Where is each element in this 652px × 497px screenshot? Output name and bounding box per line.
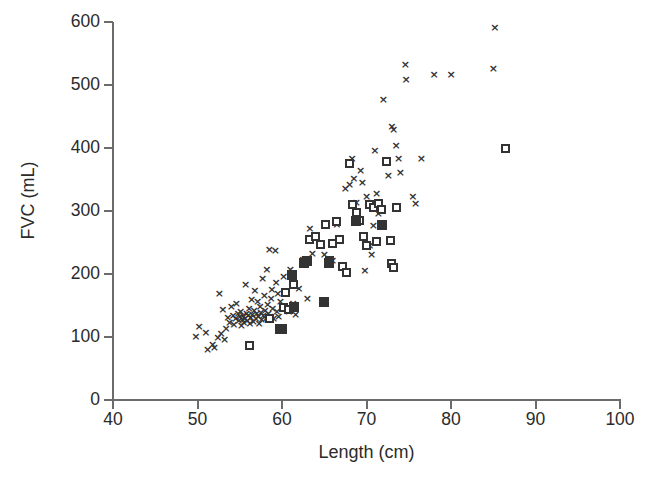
data-point-x-marker: × [489,22,500,33]
data-point-x-marker: × [395,167,406,178]
data-point-x-marker: × [267,303,278,314]
data-point-x-marker: × [252,296,263,307]
data-point-x-marker: × [200,327,211,338]
data-point-open-square [338,262,347,271]
x-axis-label: Length (cm) [113,442,620,463]
data-point-x-marker: × [242,315,253,326]
data-point-open-square [289,280,298,289]
data-point-x-marker: × [488,63,499,74]
data-point-x-marker: × [355,165,366,176]
data-point-x-marker: × [258,310,269,321]
data-point-x-marker: × [264,244,275,255]
data-point-open-square [382,157,391,166]
x-tick-label: 40 [83,409,143,430]
scatter-plot-figure: 0100200300400500600 405060708090100 FVC … [0,0,652,497]
data-point-x-marker: × [244,303,255,314]
data-point-x-marker: × [273,311,284,322]
data-point-x-marker: × [255,301,266,312]
data-point-x-marker: × [259,290,270,301]
data-point-filled-square [319,297,329,307]
data-point-open-square [311,232,320,241]
data-point-x-marker: × [262,299,273,310]
x-tick-label: 60 [252,409,312,430]
data-point-x-marker: × [302,293,313,304]
data-point-x-marker: × [340,183,351,194]
data-point-x-marker: × [226,301,237,312]
data-point-x-marker: × [224,317,235,328]
data-point-open-square [369,203,378,212]
x-tick-label: 80 [421,409,481,430]
y-tick-label: 500 [48,74,100,95]
data-point-open-square [387,259,396,268]
data-point-open-square [325,256,334,265]
data-point-open-square [501,144,510,153]
data-point-x-marker: × [233,315,244,326]
data-point-x-marker: × [271,277,282,288]
data-point-x-marker: × [240,279,251,290]
data-point-x-marker: × [446,69,457,80]
data-point-x-marker: × [293,283,304,294]
data-point-x-marker: × [361,191,372,202]
data-point-x-marker: × [272,288,283,299]
y-tick-mark [104,273,113,275]
y-tick-mark [104,210,113,212]
data-point-x-marker: × [251,308,262,319]
data-point-x-marker: × [307,248,318,259]
data-point-x-marker: × [230,313,241,324]
y-axis-label-wrap: FVC (mL) [0,0,40,420]
y-tick-label: 400 [48,137,100,158]
y-tick-mark [104,147,113,149]
data-point-filled-square [275,324,285,334]
data-point-x-marker: × [250,313,261,324]
data-point-x-marker: × [247,309,258,320]
data-point-x-marker: × [363,197,374,208]
data-point-open-square [389,263,398,272]
data-point-x-marker: × [287,298,298,309]
data-point-x-marker: × [373,208,384,219]
data-point-open-square [377,205,386,214]
data-point-open-square [359,232,368,241]
data-point-open-square [372,237,381,246]
data-point-x-marker: × [378,94,389,105]
data-point-open-square [321,220,330,229]
data-point-x-marker: × [410,198,421,209]
data-point-x-marker: × [219,334,230,345]
data-point-x-marker: × [357,177,368,188]
data-point-filled-square [287,270,297,280]
data-point-x-marker: × [249,285,260,296]
data-point-x-marker: × [323,257,334,268]
data-point-open-square [305,235,314,244]
data-point-x-marker: × [227,310,238,321]
data-point-x-marker: × [254,318,265,329]
data-point-open-square [348,200,357,209]
data-point-open-square [265,314,274,323]
data-point-x-marker: × [271,306,282,317]
data-point-x-marker: × [359,265,370,276]
data-point-x-marker: × [263,308,274,319]
data-point-x-marker: × [388,124,399,135]
data-point-x-marker: × [255,307,266,318]
data-point-x-marker: × [228,319,239,330]
data-point-x-marker: × [261,264,272,275]
data-point-open-square [279,303,288,312]
x-tick-mark [197,399,199,409]
data-point-x-marker: × [248,316,259,327]
data-point-x-marker: × [249,305,260,316]
data-point-x-marker: × [285,264,296,275]
data-point-x-marker: × [304,223,315,234]
y-tick-label: 200 [48,263,100,284]
data-point-x-marker: × [257,273,268,284]
data-point-x-marker: × [216,328,227,339]
data-point-x-marker: × [416,153,427,164]
data-point-x-marker: × [331,219,342,230]
data-point-open-square [316,240,325,249]
y-tick-mark [104,336,113,338]
x-tick-label: 90 [506,409,566,430]
data-point-x-marker: × [241,308,252,319]
data-point-x-marker: × [266,293,277,304]
data-point-x-marker: × [319,249,330,260]
data-point-x-marker: × [246,294,257,305]
data-point-filled-square [377,220,387,230]
data-point-open-square [281,288,290,297]
y-tick-label: 0 [48,389,100,410]
